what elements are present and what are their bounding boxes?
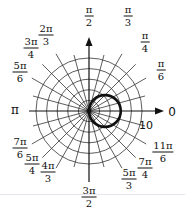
angle-label-270: 3π2 — [82, 186, 97, 209]
angle-label-240: 4π3 — [41, 161, 56, 184]
angle-label-60: π3 — [124, 5, 133, 28]
angle-label-numerator: 5π — [122, 168, 137, 180]
angle-label-denominator: 4 — [28, 49, 34, 60]
angle-label-90: π2 — [85, 5, 94, 28]
angle-label-denominator: 4 — [142, 43, 148, 54]
angle-label-denominator: 4 — [29, 165, 35, 176]
angle-label-numerator: π — [85, 5, 94, 17]
angle-label-numerator: π — [157, 59, 166, 71]
angle-label-30: π6 — [157, 59, 166, 82]
angle-label-numerator: 3π — [24, 37, 39, 49]
angle-label-120: 2π3 — [39, 24, 54, 47]
angle-label-45: π4 — [141, 31, 150, 54]
angle-label-numerator: π — [141, 31, 150, 43]
grid-spoke-165 — [33, 96, 89, 111]
grid-spoke-195 — [33, 111, 89, 126]
angle-label-denominator: 3 — [45, 173, 51, 184]
angle-label-300: 5π3 — [122, 168, 137, 191]
axis-label-pi: π — [11, 103, 19, 117]
angle-label-225: 5π4 — [25, 153, 40, 176]
origin-dot — [87, 109, 91, 113]
angle-label-denominator: 6 — [17, 73, 23, 84]
angle-label-135: 3π4 — [24, 37, 39, 60]
grid-spoke-105 — [74, 55, 89, 111]
angle-label-numerator: 5π — [25, 153, 40, 165]
axis-label-zero: 0 — [168, 105, 176, 119]
angle-label-denominator: 6 — [158, 71, 164, 82]
angle-label-denominator: 6 — [17, 149, 23, 160]
arrow-up-icon — [86, 37, 93, 46]
angle-label-150: 5π6 — [13, 61, 28, 84]
grid-spoke-255 — [74, 111, 89, 167]
ring-label-10: 10 — [139, 119, 153, 132]
angle-label-numerator: 4π — [41, 161, 56, 173]
angle-label-numerator: 3π — [82, 186, 97, 198]
polar-graph — [0, 0, 185, 212]
angle-label-315: 7π4 — [138, 157, 153, 180]
angle-label-numerator: π — [124, 5, 133, 17]
angle-label-denominator: 3 — [125, 17, 131, 28]
angle-label-denominator: 2 — [86, 17, 92, 28]
angle-label-denominator: 6 — [160, 153, 166, 164]
angle-label-numerator: 7π — [138, 157, 153, 169]
angle-label-numerator: 11π — [152, 141, 173, 153]
angle-label-numerator: 2π — [39, 24, 54, 36]
angle-label-numerator: 5π — [13, 61, 28, 73]
angle-label-denominator: 2 — [86, 198, 92, 209]
angle-label-denominator: 3 — [43, 36, 49, 47]
angle-label-denominator: 4 — [142, 169, 148, 180]
arrow-right-icon — [155, 108, 164, 115]
angle-label-denominator: 3 — [126, 180, 132, 191]
angle-label-330: 11π6 — [152, 141, 173, 164]
angle-label-numerator: 7π — [13, 137, 28, 149]
